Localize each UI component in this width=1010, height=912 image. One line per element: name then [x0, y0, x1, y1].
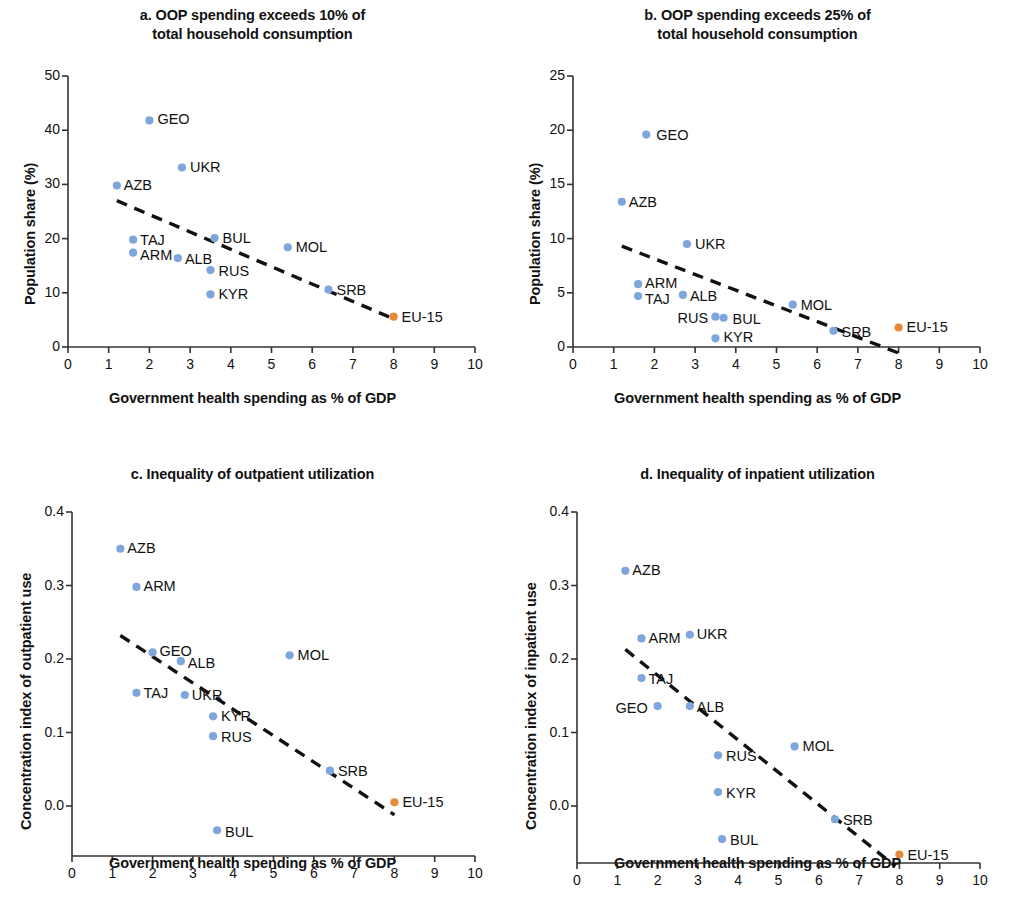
data-point-label: ALB [188, 656, 215, 670]
data-point [642, 130, 650, 138]
data-point [791, 742, 799, 750]
data-point-label: TAJ [143, 686, 168, 700]
x-tick-label: 10 [460, 356, 490, 372]
chart-panel-c: c. Inequality of outpatient utilization0… [0, 455, 505, 912]
data-point-label: TAJ [140, 233, 165, 247]
data-point [286, 651, 294, 659]
y-axis-title-a: Population share (%) [22, 163, 38, 305]
data-point [895, 323, 903, 331]
data-point-label: ALB [697, 700, 724, 714]
data-point [634, 280, 642, 288]
data-point [129, 236, 137, 244]
x-tick-label: 3 [683, 872, 713, 888]
data-point-label: GEO [656, 128, 688, 142]
data-point-label: EU-15 [402, 795, 443, 809]
figure-root: a. OOP spending exceeds 10% oftotal hous… [0, 0, 1010, 912]
data-point-label: ARM [645, 276, 677, 290]
data-point-label: BUL [730, 833, 758, 847]
data-point [210, 234, 218, 242]
data-point-label: SRB [843, 813, 873, 827]
data-point [719, 314, 727, 322]
y-tick-label: 0.4 [523, 503, 569, 519]
data-point-label: SRB [336, 283, 366, 297]
x-axis-title-b: Government health spending as % of GDP [505, 390, 1010, 406]
data-point-label: KYR [726, 786, 756, 800]
x-tick-label: 6 [802, 356, 832, 372]
x-tick-label: 4 [721, 356, 751, 372]
y-tick-label: 20 [519, 121, 565, 137]
data-point-label: EU-15 [402, 310, 443, 324]
data-point-label: UKR [695, 237, 726, 251]
data-point [634, 292, 642, 300]
data-point-label: ARM [140, 248, 172, 262]
data-point [132, 583, 140, 591]
x-tick-label: 7 [844, 872, 874, 888]
y-tick-label: 50 [14, 67, 60, 83]
data-point [326, 767, 334, 775]
data-point [129, 249, 137, 257]
data-point-label: GEO [157, 112, 189, 126]
x-tick-label: 5 [257, 356, 287, 372]
x-tick-label: 1 [94, 356, 124, 372]
x-tick-label: 6 [297, 356, 327, 372]
data-point [621, 567, 629, 575]
x-tick-label: 10 [965, 872, 995, 888]
y-tick-label: 40 [14, 121, 60, 137]
data-point-label: TAJ [648, 672, 673, 686]
data-point-label: KYR [723, 330, 753, 344]
data-point-label: AZB [124, 178, 152, 192]
x-tick-label: 5 [762, 356, 792, 372]
data-point-label: UKR [192, 688, 223, 702]
chart-panel-d: d. Inequality of inpatient utilization0.… [505, 455, 1010, 912]
data-point-label: UKR [190, 160, 221, 174]
x-tick-label: 3 [680, 356, 710, 372]
trendline-c [120, 635, 394, 814]
data-point [324, 285, 332, 293]
data-point [209, 732, 217, 740]
data-point [113, 181, 121, 189]
data-point-label: RUS [221, 730, 252, 744]
data-point [718, 835, 726, 843]
data-point-label: AZB [127, 541, 155, 555]
data-point [711, 313, 719, 321]
y-tick-label: 25 [519, 67, 565, 83]
x-tick-label: 4 [216, 356, 246, 372]
data-point-label: SRB [841, 325, 871, 339]
x-tick-label: 8 [884, 356, 914, 372]
x-tick-label: 8 [884, 872, 914, 888]
data-point [174, 254, 182, 262]
data-point-label: ALB [185, 252, 212, 266]
data-point-label: GEO [616, 701, 648, 715]
data-point [178, 163, 186, 171]
data-point-label: ARM [648, 631, 680, 645]
data-point [711, 334, 719, 342]
x-tick-label: 2 [643, 872, 673, 888]
data-point [149, 648, 157, 656]
data-point [390, 798, 398, 806]
data-point-label: UKR [697, 627, 728, 641]
data-point-label: ALB [690, 289, 717, 303]
x-tick-label: 8 [379, 356, 409, 372]
data-point [209, 712, 217, 720]
data-point [116, 545, 124, 553]
data-point-label: RUS [218, 264, 249, 278]
data-point [789, 301, 797, 309]
data-point [654, 702, 662, 710]
y-tick-label: 0 [519, 338, 565, 354]
x-tick-label: 10 [965, 356, 995, 372]
x-tick-label: 9 [925, 872, 955, 888]
data-point [714, 751, 722, 759]
data-point-label: MOL [298, 648, 329, 662]
data-point [390, 313, 398, 321]
x-tick-label: 0 [53, 356, 83, 372]
data-point-label: TAJ [645, 292, 670, 306]
data-point-label: MOL [801, 298, 832, 312]
data-point [679, 291, 687, 299]
data-point [284, 243, 292, 251]
data-point [829, 327, 837, 335]
data-point-label: ARM [143, 579, 175, 593]
x-tick-label: 0 [562, 872, 592, 888]
y-axis-title-b: Population share (%) [527, 163, 543, 305]
data-point [213, 826, 221, 834]
x-tick-label: 4 [723, 872, 753, 888]
